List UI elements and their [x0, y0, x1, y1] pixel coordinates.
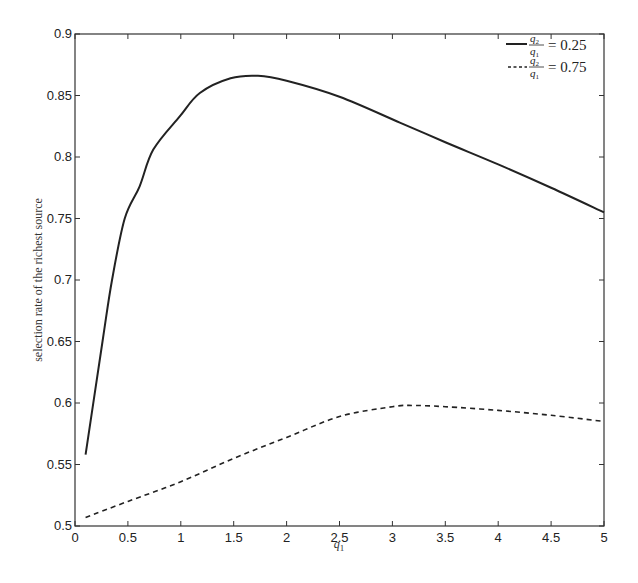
legend-value-2: = 0.75: [548, 59, 586, 75]
x-tick-label: 5: [600, 530, 607, 545]
x-tick-label: 0.5: [119, 530, 137, 545]
x-tick-label: 0: [71, 530, 78, 545]
x-axis-ticks: 00.511.522.533.544.55: [71, 34, 607, 545]
x-tick-label: 1.5: [225, 530, 243, 545]
plot-frame: [75, 34, 604, 526]
y-tick-label: 0.75: [47, 211, 72, 226]
x-tick-label: 4: [495, 530, 502, 545]
series-line-dashed: [86, 405, 604, 517]
y-tick-label: 0.65: [47, 334, 72, 349]
legend-entry-dashed: q2 q1 = 0.75: [508, 54, 586, 81]
plot-area-border: [75, 34, 604, 526]
x-tick-label: 2: [283, 530, 290, 545]
legend-entry-solid: q2 q1 = 0.25: [506, 32, 586, 59]
x-tick-label: 4.5: [542, 530, 560, 545]
x-tick-label: 3.5: [436, 530, 454, 545]
x-tick-label: 1: [177, 530, 184, 545]
line-chart: 00.511.522.533.544.55 0.50.550.60.650.70…: [0, 0, 638, 583]
y-tick-label: 0.6: [54, 395, 72, 410]
x-tick-label: 3: [389, 530, 396, 545]
y-axis-label: selection rate of the richest source: [31, 198, 45, 362]
y-tick-label: 0.85: [47, 88, 72, 103]
y-tick-label: 0.7: [54, 272, 72, 287]
legend-fraction-bottom-2: q1: [530, 67, 540, 81]
y-axis-ticks: 0.50.550.60.650.70.750.80.850.9: [47, 26, 604, 533]
y-tick-label: 0.8: [54, 149, 72, 164]
series-group: [86, 76, 604, 518]
legend-value-1: = 0.25: [548, 37, 586, 53]
y-tick-label: 0.5: [54, 518, 72, 533]
y-tick-label: 0.9: [54, 26, 72, 41]
series-line-solid: [86, 76, 604, 455]
legend: q2 q1 = 0.25 q2 q1 = 0.75: [506, 32, 586, 81]
y-tick-label: 0.55: [47, 457, 72, 472]
